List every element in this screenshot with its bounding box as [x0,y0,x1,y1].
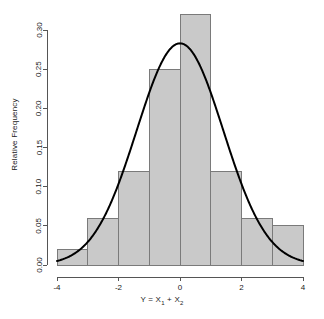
x-axis-tick-label: -2 [115,283,123,292]
y-axis: 0.000.050.100.150.200.250.30 [35,22,48,273]
y-axis-tick-label: 0.20 [35,100,44,116]
bars-group [57,14,303,265]
y-axis-title: Relative Frequency [10,85,19,185]
histogram-chart: 0.000.050.100.150.200.250.30 -4-2024 Rel… [0,0,324,319]
histogram-bar [57,249,88,265]
histogram-bar [180,14,211,265]
x-axis-title-mid: + X [165,295,180,304]
x-axis-tick-label: 4 [301,283,306,292]
y-axis-tick-label: 0.00 [35,257,44,273]
histogram-bar [119,171,150,265]
y-axis-title-wrap: Relative Frequency [2,0,18,319]
y-axis-tick-label: 0.05 [35,218,44,234]
y-axis-tick-label: 0.30 [35,22,44,38]
y-axis-tick-label: 0.25 [35,61,44,77]
x-axis-tick-label: 2 [239,283,244,292]
x-axis-title-lead: Y = X [140,295,161,304]
x-axis-title-sub2: 2 [180,300,184,306]
histogram-bar [149,69,180,265]
x-axis-tick-label: 0 [178,283,183,292]
histogram-bar [211,171,242,265]
histogram-bar [242,218,273,265]
histogram-bar [88,218,119,265]
y-axis-tick-label: 0.10 [35,178,44,194]
x-axis: -4-2024 [53,277,305,292]
x-axis-title: Y = X1 + X2 [0,295,324,306]
y-axis-tick-label: 0.15 [35,139,44,155]
plot-area: 0.000.050.100.150.200.250.30 -4-2024 [0,0,324,319]
x-axis-tick-label: -4 [53,283,61,292]
